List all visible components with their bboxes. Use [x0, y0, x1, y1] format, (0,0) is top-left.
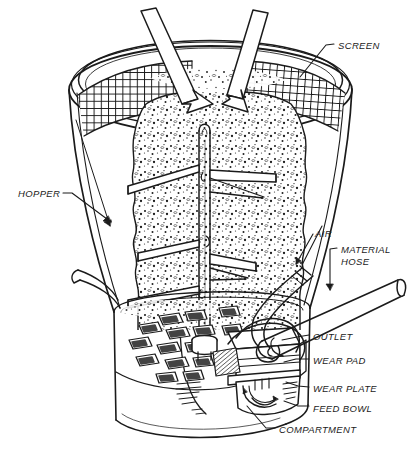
label-hose: HOSE [341, 256, 369, 268]
label-wear-plate: WEAR PLATE [313, 383, 377, 395]
label-air: AIR [315, 228, 332, 240]
label-material: MATERIAL [341, 244, 391, 256]
label-feed-bowl: FEED BOWL [313, 403, 372, 415]
label-hopper: HOPPER [18, 188, 60, 200]
label-compartment: COMPARTMENT [279, 424, 356, 436]
label-outlet: OUTLET [313, 331, 353, 343]
label-wear-pad: WEAR PAD [313, 355, 366, 367]
label-screen: SCREEN [338, 40, 380, 52]
figure-canvas: SCREEN HOPPER AIR MATERIAL HOSE OUTLET W… [0, 0, 411, 458]
